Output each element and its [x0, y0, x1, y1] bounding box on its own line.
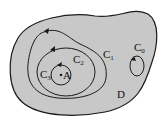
label-d: D — [117, 89, 125, 100]
label-c2: C2 — [73, 54, 84, 67]
label-c1: C1 — [103, 49, 114, 62]
diagram-canvas: C1 C2 C3 C0 A D — [0, 0, 164, 123]
label-a: A — [63, 70, 71, 81]
label-c3: C3 — [40, 69, 51, 82]
point-a — [60, 74, 63, 77]
label-c0: C0 — [134, 42, 145, 55]
